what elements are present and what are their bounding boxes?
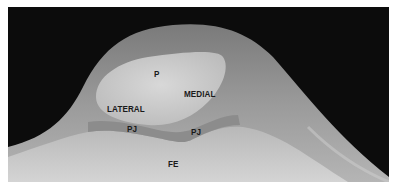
- xray-image: P MEDIAL LATERAL PJ PJ FE: [8, 7, 389, 182]
- patella-label: P: [154, 69, 159, 79]
- pj-left-label: PJ: [127, 124, 137, 134]
- femur-label: FE: [168, 159, 179, 169]
- pj-right-label: PJ: [191, 127, 201, 137]
- medial-label: MEDIAL: [184, 89, 216, 99]
- lateral-label: LATERAL: [107, 104, 145, 114]
